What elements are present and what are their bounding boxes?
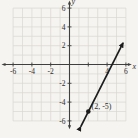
x-tick-label: -6 bbox=[10, 67, 16, 76]
x-tick-label: 6 bbox=[124, 67, 128, 76]
point-label: (2, -5) bbox=[92, 102, 112, 111]
y-tick-label: -6 bbox=[59, 117, 65, 126]
y-tick-label: 2 bbox=[62, 41, 66, 50]
x-axis-right-arrow-icon bbox=[128, 63, 132, 66]
coordinate-plane: -6-4-246 642-2-4-6 x y (2, -5) bbox=[0, 0, 138, 138]
point-marker bbox=[86, 109, 91, 114]
y-tick-label: -2 bbox=[59, 79, 65, 88]
x-axis-letter: x bbox=[132, 62, 137, 71]
y-tick-label: -4 bbox=[59, 98, 65, 107]
y-tick-label: 6 bbox=[62, 4, 66, 13]
y-axis-letter: y bbox=[71, 0, 76, 6]
x-tick-label: -4 bbox=[29, 67, 35, 76]
y-tick-label: 4 bbox=[62, 23, 66, 32]
graph-figure: -6-4-246 642-2-4-6 x y (2, -5) bbox=[0, 0, 138, 138]
x-tick-label: -2 bbox=[48, 67, 54, 76]
x-axis-left-arrow-icon bbox=[2, 63, 6, 66]
y-axis-bottom-arrow-icon bbox=[68, 125, 71, 129]
